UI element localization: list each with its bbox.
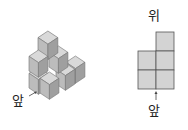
front-arrow-left [29,92,37,97]
diagram-canvas: 위 앞 앞 [0,0,188,130]
front-label-left: 앞 [12,94,24,107]
isometric-cube-stack [29,31,85,99]
front-arrow-right [155,91,158,100]
top-view-grid [138,32,174,89]
top-label: 위 [148,9,160,22]
front-label-right: 앞 [148,104,160,117]
